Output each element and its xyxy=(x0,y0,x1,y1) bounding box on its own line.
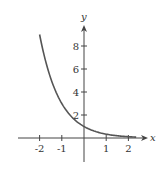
y-tick-label: 6 xyxy=(73,64,79,75)
y-tick-label: 4 xyxy=(73,87,79,98)
x-axis-label: x xyxy=(150,132,156,143)
chart: xy-2-1122468 xyxy=(0,0,165,169)
x-tick-label: 2 xyxy=(125,143,131,154)
x-tick-label: -1 xyxy=(57,143,67,154)
y-tick-label: 8 xyxy=(73,41,79,52)
x-tick-label: 1 xyxy=(103,143,109,154)
plot-area: xy-2-1122468 xyxy=(0,0,165,169)
x-tick-label: -2 xyxy=(35,143,45,154)
function-curve xyxy=(40,35,137,138)
y-axis-label: y xyxy=(80,11,87,22)
